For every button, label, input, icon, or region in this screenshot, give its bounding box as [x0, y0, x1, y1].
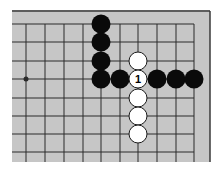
black-stone-icon — [92, 33, 111, 52]
star-point-icon — [24, 77, 29, 82]
star-points — [24, 77, 29, 82]
black-stone-icon — [167, 70, 186, 89]
black-stone — [111, 70, 130, 89]
black-stone — [92, 33, 111, 52]
black-stone — [92, 52, 111, 71]
go-diagram: 1 — [0, 0, 222, 171]
black-stone — [92, 15, 111, 34]
go-board: 1 — [0, 0, 222, 171]
white-stone — [129, 52, 147, 70]
white-stone-icon — [129, 89, 147, 107]
black-stone-icon — [148, 70, 167, 89]
black-stone — [148, 70, 167, 89]
black-stone — [92, 70, 111, 89]
white-stone — [129, 107, 147, 125]
black-stone-icon — [92, 52, 111, 71]
black-stone-icon — [92, 15, 111, 34]
black-stone-icon — [185, 70, 204, 89]
white-stone — [129, 125, 147, 143]
move-number-label: 1 — [135, 73, 141, 85]
white-stone-icon — [129, 52, 147, 70]
white-stone: 1 — [129, 70, 147, 88]
white-stone-icon — [129, 125, 147, 143]
black-stone — [185, 70, 204, 89]
black-stone — [167, 70, 186, 89]
black-stone-icon — [111, 70, 130, 89]
white-stone-icon — [129, 107, 147, 125]
black-stone-icon — [92, 70, 111, 89]
white-stone — [129, 89, 147, 107]
